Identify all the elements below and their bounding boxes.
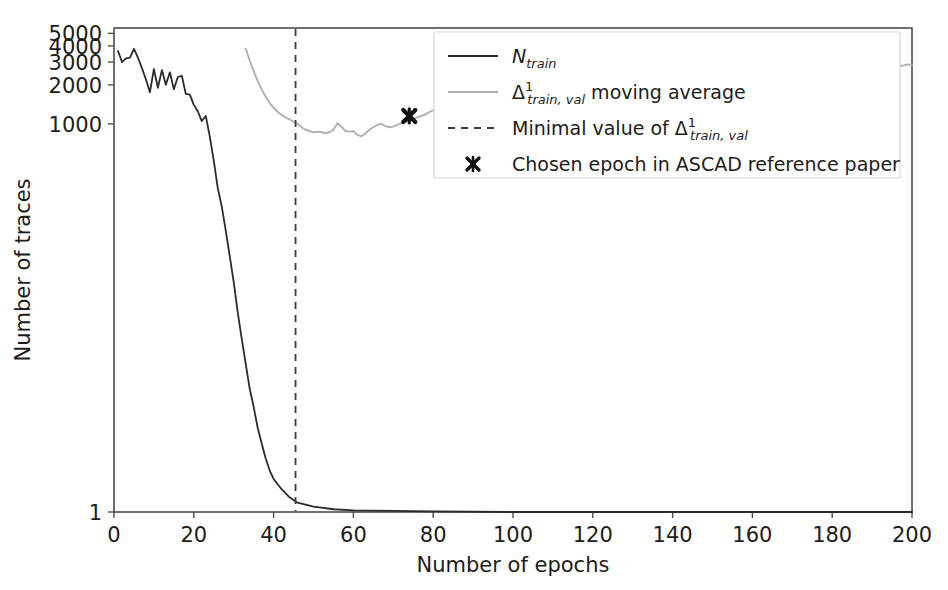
y-axis-title: Number of traces	[11, 178, 35, 361]
y-tick-label: 1000	[49, 113, 102, 137]
chart-figure: 500040003000200010001 020406080100120140…	[0, 0, 948, 590]
x-tick-label: 100	[493, 523, 533, 547]
legend-label-min-delta: Δ	[675, 117, 688, 139]
legend-label-min-head: Minimal value of	[512, 117, 675, 139]
x-tick-label: 180	[812, 523, 852, 547]
y-tick-label: 1	[89, 501, 102, 525]
legend-label-n-train-main: N	[512, 45, 526, 67]
x-tick-label: 120	[573, 523, 613, 547]
legend-label-delta-symbol: Δ	[512, 81, 525, 103]
x-tick-label: 200	[892, 523, 932, 547]
legend-label-delta-tail: moving average	[585, 81, 746, 103]
line-chart: 500040003000200010001 020406080100120140…	[0, 0, 948, 590]
legend-label-delta-sub: train, val	[527, 92, 585, 107]
x-tick-label: 20	[180, 523, 207, 547]
legend-label-chosen-epoch: Chosen epoch in ASCAD reference paper	[512, 153, 900, 175]
legend-label-n-train-sub: train	[526, 56, 556, 71]
x-tick-label: 160	[732, 523, 772, 547]
legend-label-min-sub: train, val	[690, 128, 748, 143]
x-tick-label: 80	[420, 523, 447, 547]
y-tick-label: 3000	[49, 51, 102, 75]
y-tick-label: 2000	[49, 74, 102, 98]
x-tick-label: 140	[653, 523, 693, 547]
x-tick-label: 40	[260, 523, 287, 547]
legend-item-chosen-epoch[interactable]: Chosen epoch in ASCAD reference paper	[467, 153, 900, 175]
x-tick-label: 60	[340, 523, 367, 547]
x-tick-label: 0	[107, 523, 120, 547]
legend: Ntrain Δ1train, val moving average Minim…	[434, 32, 900, 178]
x-axis-title: Number of epochs	[417, 553, 610, 577]
